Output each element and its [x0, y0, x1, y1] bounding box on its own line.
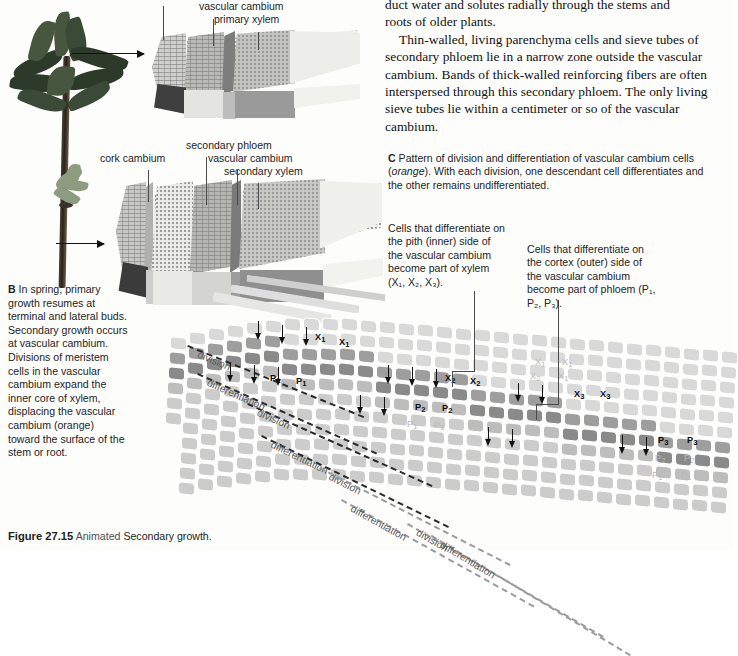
cell [185, 391, 202, 405]
cell [356, 379, 373, 393]
label-vascular-cambium-b: vascular cambium [208, 152, 293, 165]
body-paragraph: Thin-walled, living parenchyma cells and… [385, 31, 733, 135]
cell [238, 426, 255, 440]
cell [226, 339, 243, 353]
panel-b-letter: B [8, 283, 16, 295]
cell-identity-label: X3 [600, 389, 610, 401]
cell [507, 407, 524, 421]
cell [444, 477, 461, 491]
cell [603, 400, 620, 414]
cell [511, 347, 528, 361]
cell [189, 331, 206, 345]
cell [244, 351, 261, 365]
cell [583, 414, 600, 428]
cell [490, 375, 507, 389]
cell [393, 397, 410, 411]
cell-identity-label: X1 [558, 371, 568, 383]
label-secondary-phloem-b: secondary phloem [186, 139, 272, 152]
cell [510, 362, 527, 376]
cell [292, 467, 309, 481]
cell [358, 349, 375, 363]
panel-b-cortex [151, 181, 193, 276]
cell [390, 427, 407, 441]
cell [539, 485, 556, 499]
cell [615, 492, 632, 506]
cell [339, 347, 356, 361]
pointer-arrow-to-panel-b [56, 243, 104, 244]
cell [503, 452, 520, 466]
cell-identity-label: X3 [574, 389, 584, 401]
cell [718, 395, 735, 409]
panel-a-side-cut-pith [294, 84, 360, 108]
panel-b-side-cut-pith [323, 258, 383, 288]
cell [578, 474, 595, 488]
cell [199, 447, 216, 461]
division-arrow [412, 367, 413, 380]
cell [467, 419, 484, 433]
cell-identity-label: P2 [442, 403, 452, 415]
cell [219, 429, 236, 443]
cell [167, 381, 184, 395]
cell [489, 390, 506, 404]
cell [389, 442, 406, 456]
cell [621, 417, 638, 431]
cell [546, 395, 563, 409]
cell-identity-label: P1 [652, 470, 662, 482]
cell [281, 363, 298, 377]
cell [502, 467, 519, 481]
cell [463, 479, 480, 493]
leaf [47, 65, 76, 98]
cell [642, 389, 659, 403]
cell-identity-label: X2 [445, 373, 455, 385]
cell [168, 366, 185, 380]
cell [182, 421, 199, 435]
cell [371, 425, 388, 439]
leader-line-extra-a [258, 32, 259, 50]
cell [679, 407, 696, 421]
xylem-note: Cells that differentiate on the pith (in… [388, 222, 508, 289]
figure-animated-tag: Animated [76, 530, 121, 542]
cell [300, 362, 317, 376]
cell [227, 324, 244, 338]
division-arrow [646, 437, 647, 450]
cell [360, 319, 377, 333]
label-cork-cambium-b: cork cambium [100, 152, 165, 165]
cell [377, 350, 394, 364]
cell [236, 456, 253, 470]
cell [473, 344, 490, 358]
cell [396, 352, 413, 366]
cell [662, 375, 679, 389]
division-arrow [306, 327, 307, 340]
cell [239, 411, 256, 425]
cell [545, 410, 562, 424]
panel-b-secondary-phloem [190, 180, 232, 274]
division-arrow [436, 369, 437, 382]
cell [560, 457, 577, 471]
cell [626, 342, 643, 356]
cell [235, 471, 252, 485]
cell [493, 330, 510, 344]
cell [699, 393, 716, 407]
cell [465, 449, 482, 463]
cell [488, 405, 505, 419]
cell-identity-label: X1 [535, 357, 545, 369]
cell [713, 455, 730, 469]
cell [491, 360, 508, 374]
cell [524, 424, 541, 438]
cell [661, 390, 678, 404]
panel-c-caption: C Pattern of division and differentiatio… [388, 152, 718, 192]
cell-identity-label: X2 [470, 376, 480, 388]
cell [695, 438, 712, 452]
panel-b-secondary-xylem [239, 179, 325, 269]
leader-line-xylem-note [474, 291, 475, 371]
cell [200, 432, 217, 446]
label-secondary-xylem-b: secondary xylem [224, 165, 303, 178]
cell [569, 337, 586, 351]
cell [416, 339, 433, 353]
cell [653, 495, 670, 509]
division-arrow [278, 367, 279, 380]
cell [391, 412, 408, 426]
figure-caption: Figure 27.15 Animated Secondary growth. [8, 530, 212, 542]
cell [694, 453, 711, 467]
